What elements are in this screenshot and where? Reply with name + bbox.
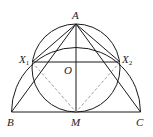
label-x2-sub: 2 — [129, 59, 133, 67]
geometry-diagram: A B C M O X1 X2 — [0, 0, 153, 137]
label-x1-sub: 1 — [26, 59, 30, 67]
label-o: O — [64, 64, 72, 76]
segment-ac — [76, 24, 141, 112]
label-m: M — [70, 116, 81, 128]
label-a: A — [71, 9, 79, 21]
label-b: B — [7, 116, 14, 128]
label-x1: X1 — [18, 53, 30, 67]
label-x2: X2 — [121, 53, 133, 67]
dashed-x2m — [76, 62, 120, 112]
label-c: C — [136, 116, 144, 128]
